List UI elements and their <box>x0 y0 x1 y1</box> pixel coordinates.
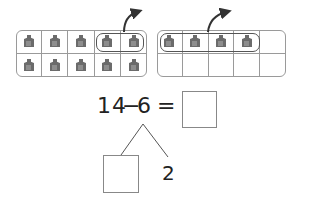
right-arrow-icon <box>208 12 226 32</box>
subtrahend: 6 <box>137 95 151 117</box>
branch-line-right <box>143 124 168 157</box>
left-arrow-icon <box>124 12 137 32</box>
equals-sign: = <box>157 95 175 117</box>
decomposition-right-part: 2 <box>162 163 175 183</box>
branch-line-left <box>121 124 143 155</box>
decomposition-left-box[interactable] <box>103 155 139 193</box>
answer-box[interactable] <box>182 91 217 128</box>
